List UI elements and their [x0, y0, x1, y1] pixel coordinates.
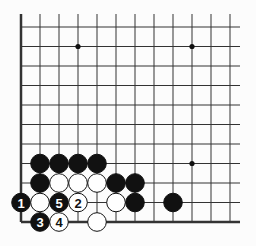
black-stone — [31, 154, 50, 173]
go-board: 15234 — [0, 0, 256, 246]
black-stone — [126, 193, 145, 212]
white-stone — [88, 174, 107, 193]
star-point — [189, 44, 194, 49]
black-stone — [88, 154, 107, 173]
move-number: 4 — [55, 215, 63, 230]
white-stone — [107, 193, 126, 212]
move-number: 3 — [36, 215, 43, 230]
move-number: 2 — [74, 196, 81, 211]
star-point — [189, 161, 194, 166]
white-stone — [50, 174, 69, 193]
move-number: 5 — [55, 196, 62, 211]
white-stone — [88, 213, 107, 232]
black-stone — [50, 154, 69, 173]
black-stone — [126, 174, 145, 193]
star-point — [75, 44, 80, 49]
move-number: 1 — [17, 196, 24, 211]
black-stone — [107, 174, 126, 193]
white-stone — [69, 174, 88, 193]
black-stone — [164, 193, 183, 212]
black-stone — [69, 154, 88, 173]
black-stone — [31, 174, 50, 193]
white-stone — [31, 193, 50, 212]
